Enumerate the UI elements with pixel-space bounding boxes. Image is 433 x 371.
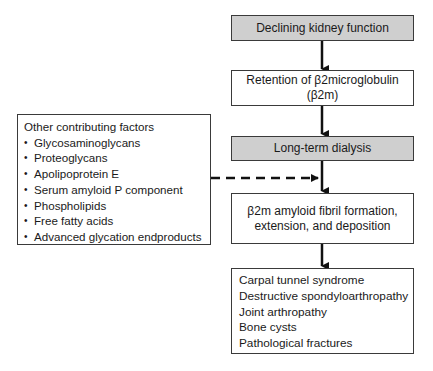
node-declining-kidney-function: Declining kidney function xyxy=(231,15,414,41)
factor-item: Glycosaminoglycans xyxy=(24,135,210,151)
node-long-term-dialysis: Long-term dialysis xyxy=(231,136,414,161)
factor-item: Apolipoprotein E xyxy=(24,166,210,182)
factor-item: Proteoglycans xyxy=(24,150,210,166)
node-retention-b2m: Retention of β2microglobulin (β2m) xyxy=(231,70,414,106)
outcome-item: Carpal tunnel syndrome xyxy=(239,273,413,289)
factors-list: Glycosaminoglycans Proteoglycans Apolipo… xyxy=(24,135,210,245)
node-amyloid-fibril-formation: β2m amyloid fibril formation, extension,… xyxy=(231,193,414,244)
factors-title: Other contributing factors xyxy=(24,119,210,135)
factor-item: Phospholipids xyxy=(24,198,210,214)
outcome-item: Joint arthropathy xyxy=(239,305,413,321)
node-clinical-outcomes: Carpal tunnel syndrome Destructive spond… xyxy=(231,268,414,354)
outcome-item: Pathological fractures xyxy=(239,336,413,352)
outcome-item: Bone cysts xyxy=(239,321,413,334)
other-contributing-factors-box: Other contributing factors Glycosaminogl… xyxy=(17,114,211,245)
factor-item: Serum amyloid P component xyxy=(24,182,210,198)
outcome-item: Destructive spondyloarthropathy xyxy=(239,289,413,305)
node-label-line-2: extension, and deposition xyxy=(254,219,390,234)
node-label: Long-term dialysis xyxy=(274,141,371,156)
node-label-line-2: (β2m) xyxy=(307,88,339,103)
node-label: Declining kidney function xyxy=(256,21,389,36)
node-label-line-1: Retention of β2microglobulin xyxy=(246,73,398,88)
factor-item: Free fatty acids xyxy=(24,213,210,229)
node-label-line-1: β2m amyloid fibril formation, xyxy=(247,204,397,219)
factor-item: Advanced glycation endproducts xyxy=(24,229,210,245)
